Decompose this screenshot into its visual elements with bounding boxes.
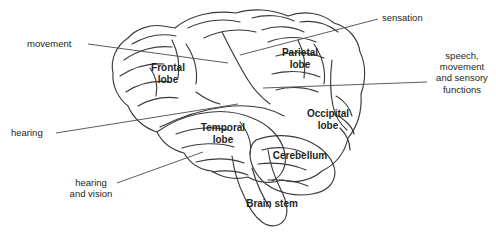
gyrus-top-4: [262, 27, 304, 32]
annotation-sensation: sensation: [382, 12, 436, 23]
brain-lobes-diagram: Frontal lobe Parietal lobe Occipital lob…: [0, 0, 496, 234]
gyrus-p4: [276, 88, 318, 92]
annotation-hearing-and-vision: hearing and vision: [62, 177, 120, 199]
annotation-speech-movement-sensory: speech, movement and sensory functions: [430, 50, 494, 95]
label-brain-stem: Brain stem: [238, 198, 306, 210]
label-occipital-lobe: Occipital lobe: [300, 108, 356, 132]
cerebellum-folia-2: [258, 163, 306, 170]
leader-lines-group: [56, 19, 427, 183]
label-parietal-lobe: Parietal lobe: [272, 47, 328, 71]
gyrus-p3: [272, 72, 320, 77]
gyrus-top-5: [300, 21, 338, 32]
gyrus-f5: [138, 97, 178, 106]
label-frontal-lobe: Frontal lobe: [142, 62, 194, 86]
annotation-hearing: hearing: [11, 127, 59, 138]
label-cerebellum: Cerebellum: [264, 150, 336, 162]
central-sulcus: [222, 32, 270, 104]
gyrus-top-2: [204, 30, 256, 38]
gyrus-f8: [196, 92, 220, 104]
leader-hearing-and-vision-line: [117, 152, 203, 183]
label-temporal-lobe: Temporal lobe: [194, 122, 252, 146]
gyrus-top-1: [188, 20, 240, 28]
gyrus-f2: [124, 47, 172, 60]
gyrus-f1: [132, 35, 176, 44]
leader-speech-movement-line: [263, 82, 427, 88]
annotation-movement: movement: [27, 38, 85, 49]
gyrus-t3: [196, 159, 244, 163]
